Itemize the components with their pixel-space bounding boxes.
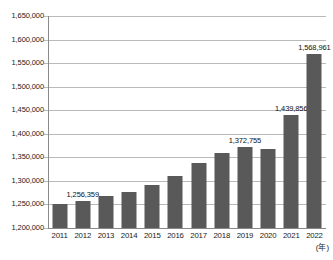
y-axis-tick-label: 1,500,000 (0, 83, 44, 91)
x-axis-tick-label: 2017 (190, 231, 207, 240)
bar[interactable] (284, 115, 299, 228)
bar-slot (233, 16, 256, 228)
x-axis-tick-label: 2018 (213, 231, 230, 240)
y-axis-tick-label: 1,650,000 (0, 12, 44, 20)
bar-slot (94, 16, 117, 228)
x-axis-tick-label: 2016 (167, 231, 184, 240)
y-axis-tick-label: 1,550,000 (0, 59, 44, 67)
bar-chart: 1,650,0001,600,0001,550,0001,500,0001,45… (0, 0, 333, 260)
y-axis-tick-label: 1,250,000 (0, 200, 44, 208)
bar[interactable] (214, 153, 229, 228)
bar-value-label: 1,568,961 (298, 44, 330, 52)
bar[interactable] (52, 204, 67, 228)
bar[interactable] (98, 196, 113, 228)
y-axis-tick-label: 1,450,000 (0, 106, 44, 114)
bar-slot (118, 16, 141, 228)
x-axis-tick-label: 2014 (121, 231, 138, 240)
bar[interactable] (237, 147, 252, 228)
y-axis-tick-label: 1,400,000 (0, 130, 44, 138)
bar-slot (141, 16, 164, 228)
x-axis-tick-label: 2021 (283, 231, 300, 240)
x-axis-line (48, 228, 326, 229)
x-axis-tick-label: 2019 (237, 231, 254, 240)
x-axis-tick-label: 2020 (260, 231, 277, 240)
x-axis-tick-label: 2013 (98, 231, 115, 240)
x-axis-unit-label: (年) (316, 243, 329, 252)
bar[interactable] (75, 201, 90, 228)
bar-slot (257, 16, 280, 228)
y-axis-tick-label: 1,600,000 (0, 36, 44, 44)
bar[interactable] (168, 176, 183, 228)
bar[interactable] (261, 149, 276, 228)
x-axis-tick-label: 2022 (306, 231, 323, 240)
bar[interactable] (191, 163, 206, 228)
bars-group: 1,256,3591,372,7551,439,8561,568,961 (48, 16, 326, 228)
x-axis-tick-label: 2011 (52, 231, 68, 240)
y-axis-tick-label: 1,200,000 (0, 224, 44, 232)
x-axis-tick-label: 2015 (144, 231, 161, 240)
bar-slot (187, 16, 210, 228)
bar[interactable] (122, 192, 137, 228)
y-axis-tick-label: 1,300,000 (0, 177, 44, 185)
bar[interactable] (307, 54, 322, 228)
bar-slot (210, 16, 233, 228)
x-axis-tick-label: 2012 (74, 231, 91, 240)
bar-slot (164, 16, 187, 228)
y-axis-tick-label: 1,350,000 (0, 153, 44, 161)
bar[interactable] (145, 185, 160, 228)
